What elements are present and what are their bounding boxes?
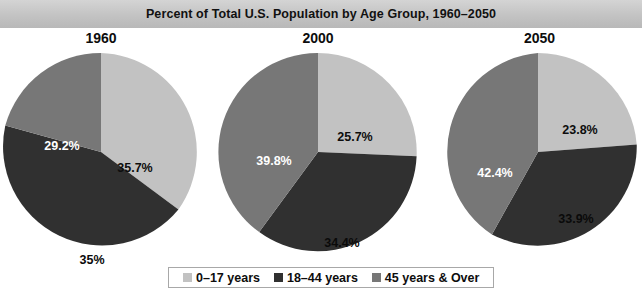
pie-label-45-over-2000: 39.8%	[256, 154, 291, 168]
legend-item-0-17: 0–17 years	[183, 271, 260, 285]
pie-label-45-over-1960: 29.2%	[44, 139, 79, 153]
pie-label-45-over-2050: 42.4%	[477, 166, 512, 180]
pie-chart-group: 1960 35.7% 35% 29.2% 2000	[0, 28, 642, 260]
pie-label-0-17-2050: 23.8%	[562, 123, 597, 137]
pie-label-18-44-2000: 34.4%	[324, 236, 359, 250]
pie-label-18-44-2050: 33.9%	[558, 212, 593, 226]
pie-label-18-44-1960: 35%	[79, 253, 104, 267]
pie-panel-1960: 1960 35.7% 35% 29.2%	[0, 28, 214, 260]
pie-panel-2000: 2000 25.7% 34.4% 39.8%	[217, 28, 431, 260]
pie-label-0-17-1960: 35.7%	[117, 161, 152, 175]
legend-label-0-17: 0–17 years	[196, 271, 260, 285]
legend-swatch-0-17	[183, 273, 192, 282]
pie-slice-0-17-2050	[538, 53, 637, 152]
legend-item-45-over: 45 years & Over	[372, 271, 480, 285]
legend-label-18-44: 18–44 years	[287, 271, 358, 285]
chart-legend: 0–17 years 18–44 years 45 years & Over	[168, 267, 494, 288]
pie-svg-2050	[437, 51, 641, 255]
pie-label-0-17-2000: 25.7%	[337, 130, 372, 144]
pie-panel-year-1960: 1960	[0, 30, 202, 46]
pie-svg-1960	[0, 51, 204, 255]
legend-label-45-over: 45 years & Over	[385, 271, 480, 285]
pie-svg-2000	[217, 51, 421, 255]
pie-panel-2050: 2050 23.8% 33.9% 42.4%	[437, 28, 642, 260]
page-title: Percent of Total U.S. Population by Age …	[146, 7, 496, 21]
pie-panel-year-2000: 2000	[217, 30, 419, 46]
chart-figure: Percent of Total U.S. Population by Age …	[0, 0, 642, 295]
legend-swatch-45-over	[372, 273, 381, 282]
legend-swatch-18-44	[274, 273, 283, 282]
legend-item-18-44: 18–44 years	[274, 271, 358, 285]
pie-panel-year-2050: 2050	[437, 30, 642, 46]
chart-title-band: Percent of Total U.S. Population by Age …	[0, 0, 642, 28]
